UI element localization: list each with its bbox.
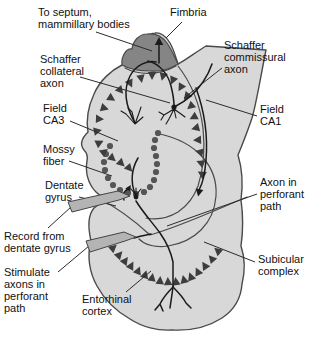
granule-cell-dot: [107, 143, 113, 149]
label-field-ca1: Field CA1: [260, 103, 284, 127]
neuron-soma: [171, 104, 176, 109]
leader-line-record-from-dentate-gyrus: [48, 207, 71, 228]
label-field-ca3: Field CA3: [43, 102, 67, 126]
granule-cell-dot: [151, 177, 157, 183]
label-record-from-dentate-gyrus: Record from dentate gyrus: [4, 230, 71, 254]
granule-cell-dot: [147, 184, 153, 190]
label-axon-in-perforant-path: Axon in perforant path: [260, 176, 304, 212]
label-stimulate-axons-in-perforant-path: Stimulate axons in perforant path: [4, 266, 50, 314]
label-fimbria: Fimbria: [170, 6, 207, 18]
leader-line-fimbria: [166, 22, 182, 38]
label-entorhinal-cortex: Entorhinal cortex: [82, 293, 132, 317]
granule-cell-dot: [141, 189, 147, 195]
label-to-septum-mammillary-bodies: To septum, mammillary bodies: [38, 6, 130, 30]
neuron-soma: [134, 195, 139, 200]
granule-cell-dot: [155, 130, 161, 136]
granule-cell-dot: [110, 182, 116, 188]
granule-cell-dot: [153, 169, 159, 175]
granule-cell-dot: [101, 159, 107, 165]
figure-canvas: To septum, mammillary bodiesFimbriaSchaf…: [0, 0, 321, 351]
granule-cell-dot: [151, 145, 157, 151]
label-dentate-gyrus: Dentate gyrus: [45, 179, 84, 203]
granule-cell-dot: [102, 167, 108, 173]
label-schaffer-commissural-axon: Schaffer commissural axon: [224, 39, 286, 75]
fimbria-region: [122, 34, 178, 71]
label-subicular-complex: Subicular complex: [258, 253, 304, 277]
label-mossy-fiber: Mossy fiber: [43, 143, 75, 167]
granule-cell-dot: [152, 137, 158, 143]
granule-cell-dot: [153, 153, 159, 159]
granule-cell-dot: [154, 161, 160, 167]
label-schaffer-collateral-axon: Schaffer collateral axon: [40, 53, 84, 89]
